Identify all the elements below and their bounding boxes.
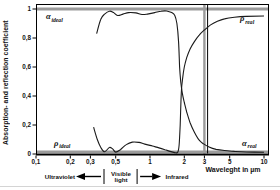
- curve-label-alpha-ideal: αideal: [46, 12, 62, 21]
- x-tick-label: 1: [148, 159, 152, 165]
- y-tick-label: 0,2: [0, 122, 31, 128]
- chart-canvas: [0, 0, 280, 190]
- spectral-selectivity-chart: Absorption- and reflection coefficient W…: [0, 0, 280, 190]
- rho-ideal-symbol: ρ: [54, 138, 58, 148]
- curve-label-alpha-real: αreal: [242, 139, 256, 148]
- rho-real-symbol: ρ: [240, 13, 244, 23]
- region-label-visible-line2: light: [111, 177, 131, 183]
- alpha-real-symbol: α: [242, 138, 247, 148]
- y-axis-title: Absorption- and reflection coefficient: [2, 8, 9, 158]
- ir-arrow-head-icon: [152, 173, 161, 180]
- curve-label-rho-ideal: ρideal: [54, 139, 70, 148]
- uv-arrow-head-icon: [76, 173, 85, 180]
- x-tick-label: 3: [203, 159, 207, 165]
- alpha-ideal-subscript: ideal: [52, 17, 63, 23]
- x-tick-label: 0,2: [66, 159, 75, 165]
- x-axis-title: Waveleght in µm: [205, 166, 260, 173]
- x-tick-label: 0,1: [32, 159, 41, 165]
- curve-rho-real: [94, 16, 264, 153]
- x-tick-label: 0,5: [111, 159, 120, 165]
- region-label-ultraviolet: Ultraviolet: [45, 174, 75, 180]
- curve-label-rho-real: ρreal: [240, 14, 253, 23]
- rho-real-subscript: real: [245, 19, 254, 25]
- alpha-real-subscript: real: [248, 143, 257, 149]
- region-label-infrared: Infrared: [165, 174, 188, 180]
- rho-ideal-subscript: ideal: [59, 143, 70, 149]
- x-tick-label: 10: [260, 159, 267, 165]
- y-tick-label: 0,4: [0, 93, 31, 99]
- plot-border: [37, 5, 269, 155]
- region-label-visible-light: Visible light: [111, 171, 131, 183]
- y-tick-label: 0,8: [0, 35, 31, 41]
- alpha-ideal-symbol: α: [46, 11, 51, 21]
- scan-artifact-line: [0, 186, 280, 187]
- y-tick-label: 1: [0, 6, 31, 12]
- x-tick-label: 2: [183, 159, 187, 165]
- x-tick-label: 5: [228, 159, 232, 165]
- y-tick-label: 0,6: [0, 64, 31, 70]
- y-tick-label: 0: [0, 151, 31, 157]
- x-tick-label: 0,3: [86, 159, 95, 165]
